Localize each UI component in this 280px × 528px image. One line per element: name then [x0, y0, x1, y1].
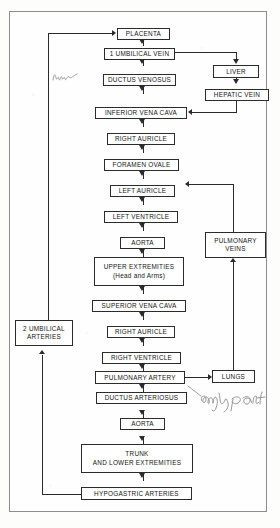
node-foramen-ovale[interactable]: FORAMEN OVALE [104, 159, 179, 171]
node-hepatic-vein[interactable]: HEPATIC VEIN [205, 89, 269, 101]
arrowhead-hepatic-vein [233, 79, 239, 84]
connector-hepatic-vein-ivc-h [192, 112, 237, 113]
arrowhead-right-auricle-1 [139, 119, 145, 124]
node-left-auricle[interactable]: LEFT AURICLE [110, 185, 175, 197]
arrowhead-trunk [139, 436, 145, 441]
connector-umbilical-arteries-placenta-v [48, 33, 49, 321]
arrowhead-upper-extremities [139, 249, 145, 254]
node-left-ventricle[interactable]: LEFT VENTRICLE [104, 211, 178, 223]
arrowhead-left-auricle [139, 171, 145, 176]
connector-pulmonary-veins-left-auricle-v [233, 184, 234, 233]
node-ductus-venosus[interactable]: DUCTUS VENOSUS [103, 74, 176, 86]
node-right-auricle-1[interactable]: RIGHT AURICLE [107, 133, 175, 145]
arrowhead-umbilical-arteries [39, 350, 45, 354]
node-right-auricle-2[interactable]: RIGHT AURICLE [107, 326, 175, 338]
node-umbilical-vein[interactable]: 1 UMBILICAL VEIN [104, 48, 175, 60]
node-inferior-vena-cava[interactable]: INFERIOR VENA CAVA [95, 107, 187, 119]
connector-pulmonary-veins-left-auricle-h [189, 184, 234, 185]
arrowhead-pulmonary-veins [230, 258, 236, 262]
arrowhead-aorta-2 [139, 410, 145, 415]
arrowhead-right-auricle-2 [139, 312, 145, 317]
node-ductus-arteriosus[interactable]: DUCTUS ARTERIOSUS [96, 392, 187, 404]
arrowhead-ductus-arteriosus [139, 384, 145, 389]
node-hypogastric-arteries[interactable]: HYPOGASTRIC ARTERIES [81, 487, 192, 500]
node-placenta[interactable]: PLACENTA [117, 28, 170, 40]
node-pulmonary-artery[interactable]: PULMONARY ARTERY [95, 371, 185, 384]
arrowhead-ivc-top [139, 86, 145, 91]
node-pulmonary-veins[interactable]: PULMONARY VEINS [205, 232, 266, 258]
node-umbilical-arteries[interactable]: 2 UMBILICAL ARTERIES [15, 320, 73, 346]
arrowhead-pulmonary-artery [139, 364, 145, 369]
connector-lungs-pulmonary-veins [233, 262, 234, 371]
connector-umbilical-vein-liver-h [175, 52, 237, 53]
connector-pulmonary-artery-lungs [185, 377, 209, 378]
arrowhead-aorta-1 [139, 223, 145, 228]
node-aorta-2[interactable]: AORTA [120, 418, 165, 430]
connector-hypogastric-umbilical-arteries-v [42, 355, 43, 495]
arrowhead-left-auricle-right [185, 181, 189, 187]
diagram-canvas: PLACENTA 1 UMBILICAL VEIN DUCTUS VENOSUS… [0, 0, 280, 528]
arrowhead-hypogastric [139, 473, 145, 478]
node-upper-extremities[interactable]: UPPER EXTREMITIES (Head and Arms) [94, 257, 184, 286]
connector-hypogastric-umbilical-arteries-h [42, 494, 82, 495]
node-superior-vena-cava[interactable]: SUPERIOR VENA CAVA [92, 300, 186, 312]
node-lungs[interactable]: LUNGS [212, 370, 255, 383]
handwritten-only-part-annotation [186, 384, 268, 414]
arrowhead-right-ventricle [139, 338, 145, 343]
node-aorta-1[interactable]: AORTA [120, 237, 165, 249]
arrowhead-liver [233, 59, 239, 64]
arrowhead-foramen-ovale [139, 145, 145, 150]
handwritten-scribble-annotation [52, 70, 78, 84]
arrowhead-placenta [112, 30, 116, 36]
node-trunk[interactable]: TRUNK AND LOWER EXTREMITIES [81, 444, 193, 473]
node-right-ventricle[interactable]: RIGHT VENTRICLE [102, 352, 181, 364]
connector-umbilical-arteries-placenta-h [48, 33, 113, 34]
arrowhead-left-ventricle [139, 197, 145, 202]
arrowhead-ivc-right [188, 109, 192, 115]
arrowhead-svc [139, 286, 145, 291]
node-liver[interactable]: LIVER [213, 65, 259, 78]
